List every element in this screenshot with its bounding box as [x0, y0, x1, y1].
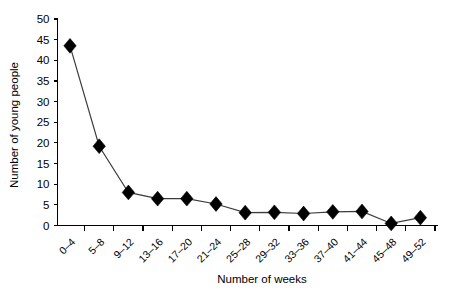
data-point: [93, 139, 105, 154]
x-tick-label: 5–8: [86, 235, 107, 256]
y-tick-label: 45: [37, 34, 50, 46]
data-point: [327, 204, 339, 219]
x-tick-label: 29–32: [253, 235, 282, 264]
x-tick-label: 49–52: [399, 235, 428, 264]
x-axis-tick-labels: 0–45–89–1213–1617–2021–2425–2829–3233–36…: [57, 235, 428, 264]
x-axis-title: Number of weeks: [217, 273, 307, 285]
data-point: [181, 191, 193, 206]
x-tick-label: 25–28: [223, 235, 252, 264]
data-point: [64, 38, 76, 53]
x-axis-ticks: [85, 226, 435, 231]
data-point: [122, 185, 134, 200]
data-point: [210, 197, 222, 212]
y-tick-label: 5: [43, 199, 49, 211]
x-tick-label: 17–20: [165, 235, 194, 264]
y-tick-label: 25: [37, 116, 50, 128]
x-tick-label: 33–36: [282, 235, 311, 264]
x-tick-label: 37–40: [311, 235, 340, 264]
line-chart: Number of young people Number of weeks 0…: [0, 0, 465, 293]
data-point: [297, 206, 309, 221]
data-point: [239, 205, 251, 220]
x-tick-label: 9–12: [111, 235, 136, 260]
x-tick-label: 45–48: [369, 235, 398, 264]
x-tick-label: 41–44: [340, 235, 369, 264]
y-tick-label: 30: [37, 96, 50, 108]
y-tick-label: 0: [43, 220, 49, 232]
data-point: [268, 205, 280, 220]
y-tick-label: 40: [37, 54, 50, 66]
y-tick-label: 20: [37, 137, 50, 149]
y-axis-title: Number of young people: [8, 62, 20, 188]
data-point-markers: [64, 38, 427, 230]
y-tick-label: 15: [37, 158, 50, 170]
data-point: [151, 191, 163, 206]
data-point: [414, 210, 426, 225]
x-tick-label: 21–24: [194, 235, 223, 264]
y-tick-label: 35: [37, 75, 50, 87]
data-point: [356, 204, 368, 219]
x-tick-label: 13–16: [136, 235, 165, 264]
data-point: [385, 216, 397, 231]
x-tick-label: 0–4: [57, 235, 78, 256]
series-line: [70, 46, 420, 224]
y-tick-label: 50: [37, 13, 50, 25]
y-tick-label: 10: [37, 178, 50, 190]
chart-container: Number of young people Number of weeks 0…: [0, 0, 465, 293]
y-axis-ticks: 05101520253035404550: [37, 13, 58, 232]
